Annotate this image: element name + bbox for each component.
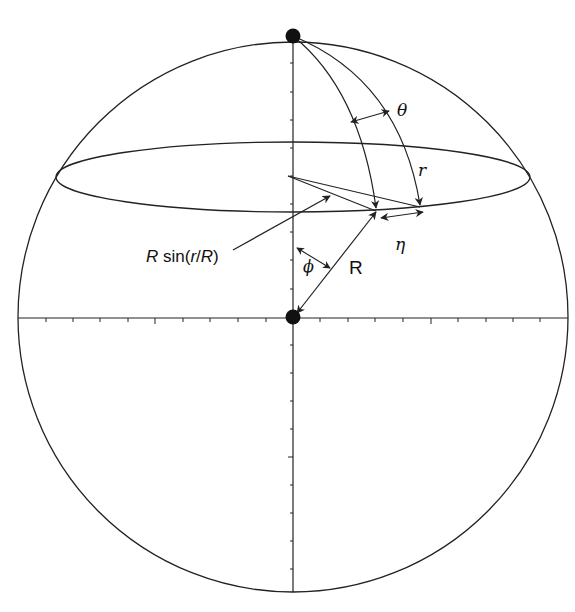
eta-arrow xyxy=(381,212,423,218)
theta-label: θ xyxy=(397,102,407,119)
r-sin-pointer xyxy=(233,196,330,250)
sphere-diagram xyxy=(0,0,575,612)
eta-label: η xyxy=(395,236,405,253)
theta-arrow xyxy=(351,111,389,122)
R-label: R xyxy=(349,258,363,277)
r-sin-close: ) xyxy=(213,247,219,266)
r-sin-func: sin( xyxy=(158,247,190,266)
meridian-arc-1 xyxy=(293,36,376,208)
r-sin-arg2: R xyxy=(201,247,213,266)
r-sin-label: R sin(r/R) xyxy=(146,248,219,265)
phi-label: ϕ xyxy=(303,259,314,275)
r-label: r xyxy=(418,162,426,179)
north-pole-point xyxy=(286,29,301,44)
r-sin-prefix: R xyxy=(146,247,158,266)
center-point xyxy=(286,310,301,325)
